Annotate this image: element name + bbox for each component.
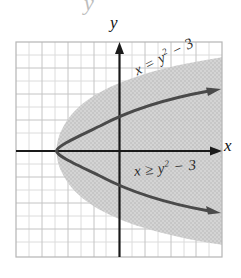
y-axis-label: y [110, 13, 118, 33]
graph-figure: y [0, 0, 241, 278]
x-axis-label: x [224, 136, 232, 156]
region-inequality-lhs: x ≥ y [133, 160, 166, 179]
coordinate-plane [0, 0, 241, 278]
region-inequality-rhs: − 3 [169, 156, 197, 175]
